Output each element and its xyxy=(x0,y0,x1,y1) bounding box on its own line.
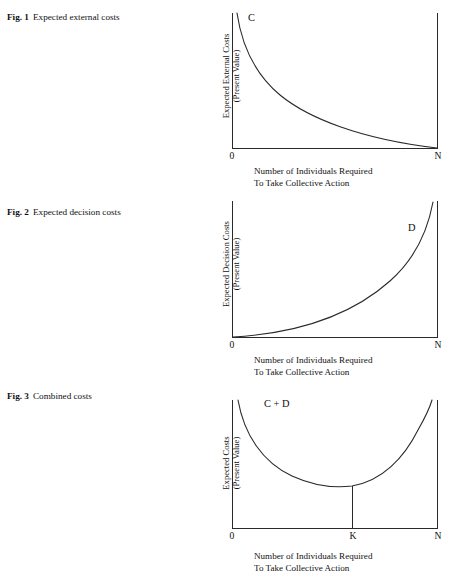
figure-2-y-axis-label-line1: Expected Decision Costs xyxy=(221,221,231,307)
figure-1-tick-end: N xyxy=(430,150,446,161)
figure-1-curve xyxy=(232,13,438,149)
figure-1-x-axis-caption-line2: To Take Collective Action xyxy=(254,177,372,189)
figure-2-curve-label: D xyxy=(408,222,416,233)
figure-2-y-axis-label-line2: (Present Value) xyxy=(231,202,241,326)
figure-3-number: Fig. 3 xyxy=(7,391,29,401)
figure-2-tick-end: N xyxy=(430,339,446,350)
figure-3-y-axis-label-line1: Expected Costs xyxy=(221,436,231,489)
figure-3-x-axis-caption-line1: Number of Individuals Required xyxy=(254,551,372,561)
figure-3-x-axis-caption-line2: To Take Collective Action xyxy=(254,562,372,574)
figure-3-optimum-marker-line xyxy=(352,486,353,528)
figure-1-number: Fig. 1 xyxy=(7,12,29,22)
figure-1-title: Expected external costs xyxy=(29,12,120,22)
figure-1-y-axis-label: Expected External Costs (Present Value) xyxy=(221,15,242,137)
figure-2-x-axis-caption-line2: To Take Collective Action xyxy=(254,366,372,378)
figure-2-y-axis-label: Expected Decision Costs (Present Value) xyxy=(221,202,242,326)
figure-3-y-axis-label-line2: (Present Value) xyxy=(231,416,241,510)
figure-3-x-axis-caption: Number of Individuals Required To Take C… xyxy=(254,550,372,575)
figure-1-caption: Fig. 1Expected external costs xyxy=(7,11,182,23)
figure-2-tick-origin: 0 xyxy=(224,339,240,350)
figure-1-x-axis-caption: Number of Individuals Required To Take C… xyxy=(254,165,372,190)
figure-3-title: Combined costs xyxy=(29,391,92,401)
figure-3-curve-label: C + D xyxy=(264,398,290,409)
figure-2-number: Fig. 2 xyxy=(7,207,29,217)
figure-2-plot: D Expected Decision Costs (Present Value… xyxy=(232,201,438,338)
figure-3-curve xyxy=(232,400,438,529)
figure-2-title: Expected decision costs xyxy=(29,207,121,217)
figure-3-caption: Fig. 3Combined costs xyxy=(7,390,182,402)
figure-2-x-axis-caption: Number of Individuals Required To Take C… xyxy=(254,354,372,379)
figure-1-y-axis-label-line2: (Present Value) xyxy=(231,15,241,137)
figure-1-tick-origin: 0 xyxy=(224,150,240,161)
figure-3-tick-origin: 0 xyxy=(224,530,240,541)
figure-3-plot: C + D Expected Costs (Present Value) 0 K… xyxy=(232,400,438,529)
figure-1-plot: C Expected External Costs (Present Value… xyxy=(232,13,438,149)
figure-1-curve-label: C xyxy=(248,12,255,23)
figure-1-x-axis-caption-line1: Number of Individuals Required xyxy=(254,166,372,176)
figure-1-y-axis-label-line1: Expected External Costs xyxy=(221,34,231,118)
figure-2-x-axis-caption-line1: Number of Individuals Required xyxy=(254,355,372,365)
figure-3-tick-optimum: K xyxy=(345,530,361,541)
figure-3-tick-end: N xyxy=(430,530,446,541)
figure-2-caption: Fig. 2Expected decision costs xyxy=(7,206,182,218)
figure-3-y-axis-label: Expected Costs (Present Value) xyxy=(221,416,242,510)
